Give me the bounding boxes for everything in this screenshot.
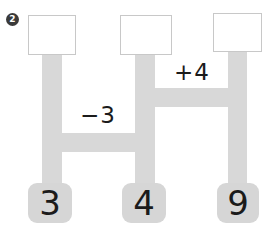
answer-box-left[interactable] [28,15,76,55]
number-tile-9: 9 [217,183,259,223]
pipe-middle [135,54,155,191]
pipe-right [228,51,247,191]
number-tile-3: 3 [28,183,72,223]
number-tile-4: 4 [122,183,166,223]
connector-bar-middle-right [145,88,237,107]
number-machine-diagram: 2 −3 +4 3 4 9 [0,0,272,227]
problem-number-badge: 2 [6,13,19,26]
answer-box-middle[interactable] [120,15,172,55]
pipe-left [42,54,62,191]
operation-label-plus-4: +4 [170,61,214,84]
connector-bar-left-middle [52,133,145,152]
answer-box-right[interactable] [213,13,262,52]
operation-label-minus-3: −3 [76,104,120,127]
